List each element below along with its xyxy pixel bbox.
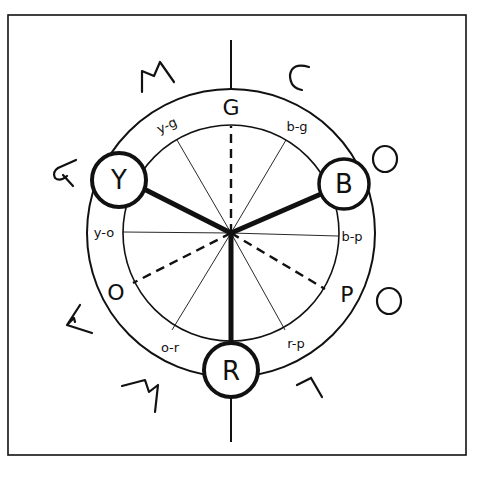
- warm-letter-m: [142, 62, 174, 92]
- primary-red: R: [204, 343, 258, 397]
- warm-letter-a: [67, 305, 92, 333]
- color-wheel-diagram: Y B R G O P y-g b-g y-o b-p o-r r-p: [0, 0, 486, 478]
- primary-label-blue: B: [335, 169, 353, 199]
- tertiary-label-red-purple: r-p: [287, 336, 304, 351]
- tertiary-label-yellow-green: y-g: [154, 114, 179, 136]
- cool-letter-l: [297, 378, 322, 397]
- primary-yellow: Y: [92, 153, 146, 207]
- secondary-label-purple: P: [340, 282, 353, 307]
- primary-label-red: R: [222, 356, 240, 386]
- secondary-label-green: G: [222, 95, 239, 120]
- tertiary-label-orange-red: o-r: [161, 340, 180, 355]
- primary-label-yellow: Y: [110, 165, 127, 195]
- secondary-label-orange: O: [107, 280, 124, 305]
- tertiary-label-yellow-orange: y-o: [94, 225, 114, 240]
- cool-letter-o2: [377, 288, 401, 314]
- cool-letter-o1: [373, 146, 397, 172]
- tertiary-label-blue-green: b-g: [286, 119, 307, 134]
- tertiary-label-blue-purple: b-p: [341, 229, 362, 244]
- warm-letter-w: [122, 380, 158, 412]
- cool-letter-c: [290, 66, 309, 90]
- warm-letter-r: [54, 160, 76, 186]
- primary-blue: B: [319, 159, 369, 209]
